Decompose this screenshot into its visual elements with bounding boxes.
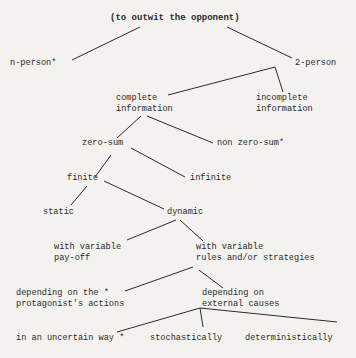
node-dep-protag-line1: depending on the * xyxy=(16,288,109,299)
node-dep-ext-line2: external causes xyxy=(202,299,279,310)
node-static: static xyxy=(43,207,74,218)
node-dep-protag-line2: protagonist's actions xyxy=(16,299,124,310)
node-complete-line1: complete xyxy=(116,93,157,104)
node-incomplete-line2: information xyxy=(256,104,313,115)
node-incomplete-line1: incomplete xyxy=(256,93,308,104)
node-var-payoff-line2: pay-off xyxy=(54,253,90,264)
node-dep-ext-line1: depending on xyxy=(202,288,264,299)
node-infinite: infinite xyxy=(190,173,231,184)
node-2-person: 2-person xyxy=(295,58,336,69)
node-var-payoff-line1: with variable xyxy=(54,242,121,253)
node-deterministic: deterministically xyxy=(245,333,333,344)
node-non-zero-sum: non zero-sum* xyxy=(217,138,284,149)
node-zero-sum: zero-sum xyxy=(82,138,123,149)
node-uncertain: in an uncertain way * xyxy=(16,333,124,344)
node-complete-line2: information xyxy=(116,104,173,115)
node-var-rules-line1: with variable xyxy=(196,242,263,253)
node-stochastic: stochastically xyxy=(150,333,222,344)
root-node: (to outwit the opponent) xyxy=(110,13,240,24)
node-finite: finite xyxy=(67,173,98,184)
node-n-person: n-person* xyxy=(10,58,56,69)
game-classification-tree: (to outwit the opponent) n-person* 2-per… xyxy=(0,0,356,358)
node-var-rules-line2: rules and/or strategies xyxy=(196,253,315,264)
node-dynamic: dynamic xyxy=(167,207,203,218)
